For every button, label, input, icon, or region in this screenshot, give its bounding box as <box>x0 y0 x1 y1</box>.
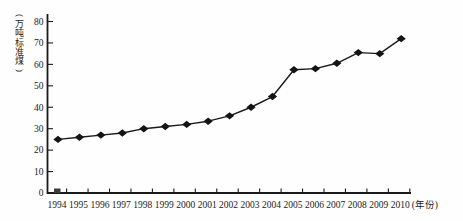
data-point-marker <box>225 112 234 119</box>
data-point-marker <box>75 134 84 141</box>
chart-canvas: 0102030405060708019941995199619971998199… <box>0 0 463 221</box>
y-axis-tick-label: 20 <box>34 145 44 155</box>
x-axis-tick-label: 1996 <box>90 200 109 210</box>
data-point-marker <box>311 65 320 72</box>
y-axis-label: (万吨标准煤) <box>12 11 27 75</box>
x-axis-tick-label: 2006 <box>305 200 324 210</box>
x-axis-tick-label: 2003 <box>241 200 260 210</box>
axis-lines <box>48 14 412 193</box>
x-axis-tick-label: 2002 <box>219 200 238 210</box>
x-axis-tick-label: 1995 <box>69 200 88 210</box>
y-axis-tick-label: 30 <box>34 124 44 134</box>
data-point-marker <box>139 125 148 132</box>
baseline-artifact-mark <box>54 189 61 194</box>
data-point-marker <box>354 49 363 56</box>
data-point-marker <box>96 131 105 138</box>
data-point-marker <box>118 129 127 136</box>
x-axis-tick-label: 2009 <box>369 200 388 210</box>
x-axis-tick-label: 1999 <box>155 200 174 210</box>
data-point-marker <box>204 117 213 124</box>
line-chart-figure: (万吨标准煤) 01020304050607080199419951996199… <box>0 0 463 221</box>
x-axis-tick-label: 2010 <box>391 200 410 210</box>
y-axis-tick-label: 80 <box>34 17 44 27</box>
y-axis-tick-label: 70 <box>34 38 44 48</box>
y-axis-tick-label: 10 <box>34 167 44 177</box>
ylabel-paren-open-char: ( <box>15 8 24 23</box>
x-axis-tick-label: 2004 <box>262 200 281 210</box>
y-axis-tick-label: 60 <box>34 60 44 70</box>
data-point-marker <box>289 66 298 73</box>
data-point-marker <box>246 104 255 111</box>
data-line <box>58 39 401 140</box>
x-axis-tick-label: 2000 <box>176 200 195 210</box>
data-point-marker <box>161 123 170 130</box>
x-axis-tick-label: 2001 <box>198 200 217 210</box>
x-axis-tick-label: 1997 <box>112 200 131 210</box>
x-axis-unit-label: (年份) <box>412 199 438 211</box>
x-axis-tick-label: 2005 <box>283 200 302 210</box>
ylabel-paren-close-char: ) <box>15 63 24 78</box>
data-point-marker <box>182 121 191 128</box>
x-axis-tick-label: 1994 <box>48 200 67 210</box>
y-axis-tick-label: 40 <box>34 103 44 113</box>
x-axis-tick-label: 2008 <box>348 200 367 210</box>
data-point-marker <box>268 93 277 100</box>
data-point-marker <box>332 60 341 67</box>
x-axis-tick-label: 2007 <box>326 200 345 210</box>
data-point-marker <box>53 136 62 143</box>
y-axis-tick-label: 50 <box>34 81 44 91</box>
x-axis-tick-label: 1998 <box>133 200 152 210</box>
y-axis-tick-label: 0 <box>39 188 44 198</box>
